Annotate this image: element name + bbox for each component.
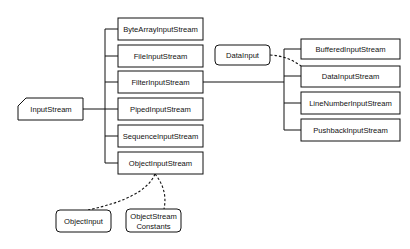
implements-objectinput [88,174,155,210]
node-linenumberinputstream[interactable]: LineNumberInputStream [301,92,400,114]
node-label: ByteArrayInputStream [123,25,198,34]
node-label: BufferedInputStream [316,45,386,54]
node-label-line2: Constants [136,222,170,231]
node-label: ObjectInput [64,217,104,226]
implements-datainput [270,55,301,66]
node-bytearrayinputstream[interactable]: ByteArrayInputStream [118,18,203,40]
node-label: DataInputStream [322,72,379,81]
node-label: SequenceInputStream [123,132,199,141]
node-label: ObjectInputStream [129,159,192,168]
node-inputstream[interactable]: InputStream [18,98,83,120]
node-label: LineNumberInputStream [309,99,392,108]
implements-objectstreamconstants [155,174,165,209]
node-label: FileInputStream [134,52,188,61]
node-pushbackinputstream[interactable]: PushbackInputStream [301,119,400,141]
node-label-line1: ObjectStream [130,212,176,221]
node-objectinput[interactable]: ObjectInput [56,210,111,232]
node-datainput[interactable]: DataInput [215,45,270,65]
node-filterinputstream[interactable]: FilterInputStream [118,71,203,93]
node-label: FilterInputStream [131,78,189,87]
node-label: PipedInputStream [130,105,191,114]
node-pipedinputstream[interactable]: PipedInputStream [118,98,203,120]
node-datainputstream[interactable]: DataInputStream [301,66,400,87]
node-fileinputstream[interactable]: FileInputStream [118,45,203,67]
node-label: InputStream [30,105,71,114]
node-objectinputstream[interactable]: ObjectInputStream [118,152,203,174]
node-objectstreamconstants[interactable]: ObjectStream Constants [126,209,181,232]
node-sequenceinputstream[interactable]: SequenceInputStream [118,125,203,147]
node-label: DataInput [226,51,260,60]
inputstream-hierarchy-diagram: InputStream ByteArrayInputStream FileInp… [0,0,410,249]
node-label: PushbackInputStream [313,126,388,135]
node-bufferedinputstream[interactable]: BufferedInputStream [301,39,400,59]
